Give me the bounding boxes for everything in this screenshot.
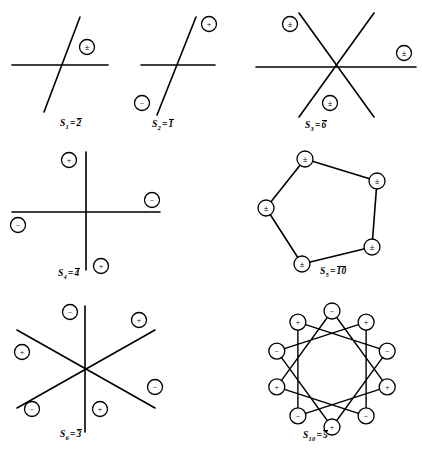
pm-marker-upper-left-glyph: ± (288, 19, 293, 29)
pm-marker-right-glyph: ± (402, 48, 407, 58)
caption-s5-value: 10 (337, 266, 347, 277)
minus-marker-vertex-8-glyph: − (275, 347, 280, 356)
pm-marker-vertex-upper-right-glyph: ± (375, 176, 380, 186)
plus-marker-vertex-9-glyph: + (296, 318, 301, 327)
figure-s5: ± ± ± ± ± (0, 140, 422, 280)
minus-marker-vertex-0-glyph: − (330, 307, 335, 316)
pm-marker-vertex-bottom-glyph: ± (300, 259, 305, 269)
pm-marker-bottom-glyph: ± (328, 98, 333, 108)
plus-marker-vertex-7-glyph: + (275, 383, 280, 392)
figure-s10-drawing: −+−+−+−+−+ (0, 295, 422, 453)
caption-s3: S3=6 (305, 120, 327, 132)
pentagon-outline (266, 159, 377, 264)
figure-s10: −+−+−+−+−+ (0, 295, 422, 453)
pm-marker-vertex-left-glyph: ± (264, 203, 269, 213)
caption-s5-equals: = (329, 266, 337, 276)
caption-s3-equals: = (314, 120, 322, 130)
sign-marker-group: −+−+−+−+−+ (269, 303, 395, 435)
figure-plate: ± S1=2 + − S2=1 (0, 0, 422, 453)
sign-marker-group: ± ± ± ± ± (258, 151, 385, 272)
caption-s3-value: 6 (322, 120, 327, 131)
figure-s5-drawing: ± ± ± ± ± (0, 140, 422, 280)
plus-marker-vertex-3-glyph: + (385, 383, 390, 392)
figure-s3: ± ± ± (0, 0, 422, 128)
figure-s3-drawing: ± ± ± (0, 0, 422, 128)
caption-s10: S10=5 (303, 430, 328, 442)
caption-s5: S5=10 (320, 266, 346, 278)
pm-marker-vertex-lower-right-glyph: ± (370, 242, 375, 252)
plus-marker-vertex-1-glyph: + (364, 318, 369, 327)
pm-marker-vertex-top-glyph: ± (303, 154, 308, 164)
minus-marker-vertex-6-glyph: − (296, 412, 301, 421)
caption-s10-equals: = (315, 430, 323, 440)
caption-s10-value: 5 (323, 430, 328, 441)
minus-marker-vertex-2-glyph: − (385, 347, 390, 356)
minus-marker-vertex-4-glyph: − (364, 412, 369, 421)
sign-marker-group: ± ± ± (283, 17, 412, 111)
plus-marker-vertex-5-glyph: + (330, 423, 335, 432)
